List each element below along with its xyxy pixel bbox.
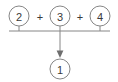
node-label-1-result: 1 bbox=[57, 64, 63, 76]
arrow-head-icon bbox=[57, 51, 64, 59]
node-label-2: 2 bbox=[16, 11, 22, 23]
operator-plus-1: + bbox=[37, 11, 43, 23]
operator-plus-2: + bbox=[77, 11, 83, 23]
diagram-canvas: 2 + 3 + 4 1 bbox=[0, 0, 118, 82]
merge-arrow-diagram: 2 + 3 + 4 1 bbox=[0, 0, 118, 82]
node-label-4: 4 bbox=[97, 11, 103, 23]
node-label-3: 3 bbox=[57, 11, 63, 23]
